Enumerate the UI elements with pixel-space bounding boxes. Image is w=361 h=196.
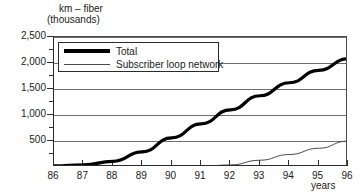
y-axis-tick-label: 500: [4, 134, 46, 145]
y-axis-tick-label: 2,000: [4, 56, 46, 67]
y-axis-title-line2: (thousands): [47, 14, 100, 25]
x-axis-title: years: [311, 180, 335, 191]
y-axis-tick-label: 2,500: [4, 30, 46, 41]
y-axis-tick-label: 1,500: [4, 82, 46, 93]
legend-swatch-total: [64, 49, 110, 52]
x-axis-tick: [347, 160, 348, 166]
x-axis-tick-label: 90: [159, 170, 183, 181]
x-axis-tick-label: 94: [276, 170, 300, 181]
legend-swatch-subscriber-loop-network: [64, 64, 110, 65]
x-axis-tick-label: 87: [70, 170, 94, 181]
legend-entry-total: Total: [64, 44, 137, 58]
legend-label-total: Total: [116, 46, 137, 57]
series-line-total: [54, 59, 347, 166]
x-axis-tick-label: 93: [247, 170, 271, 181]
x-axis-tick-label: 88: [100, 170, 124, 181]
y-axis-tick-label: 1,000: [4, 108, 46, 119]
legend-label-subscriber-loop-network: Subscriber loop network: [116, 59, 223, 70]
y-axis-title-line1: km – fiber: [59, 3, 103, 14]
x-axis-tick-label: 86: [41, 170, 65, 181]
fiber-km-line-chart: km – fiber (thousands) 2,5002,0001,5001,…: [0, 0, 361, 196]
x-axis-tick-label: 92: [217, 170, 241, 181]
x-axis-tick-label: 96: [335, 170, 359, 181]
x-axis-tick-label: 89: [129, 170, 153, 181]
x-axis-tick-label: 91: [188, 170, 212, 181]
legend: Total Subscriber loop network: [58, 42, 219, 72]
legend-entry-subscriber-loop-network: Subscriber loop network: [64, 57, 223, 71]
